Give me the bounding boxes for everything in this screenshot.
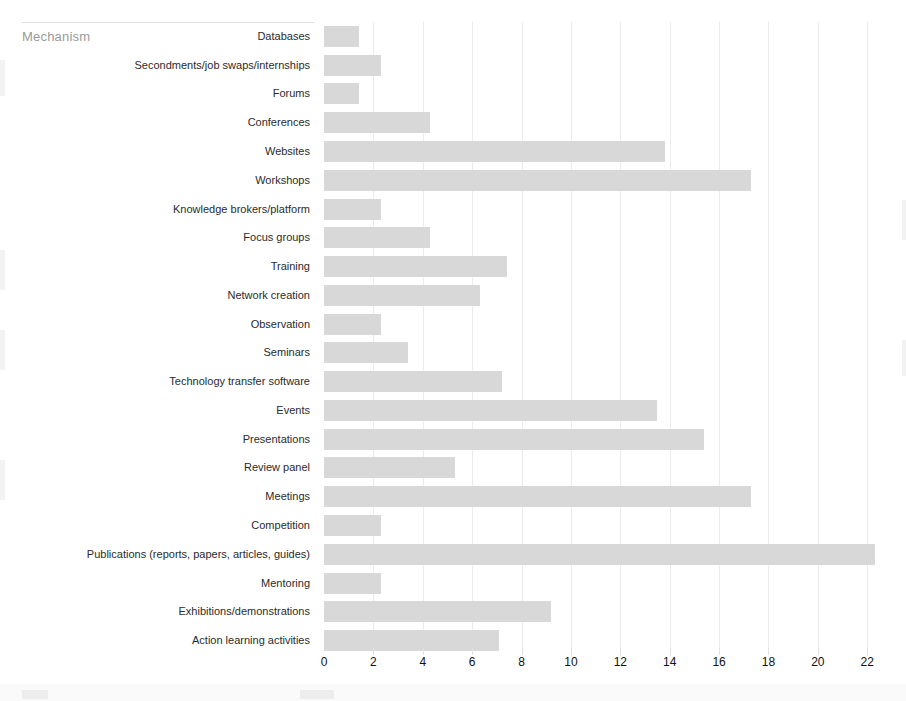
bar[interactable] <box>324 314 381 335</box>
bar-row[interactable] <box>324 457 887 478</box>
bar[interactable] <box>324 515 381 536</box>
bar[interactable] <box>324 170 751 191</box>
page-edge-artifact <box>902 340 906 376</box>
category-label: Review panel <box>244 457 310 478</box>
bar-row[interactable] <box>324 285 887 306</box>
bar[interactable] <box>324 112 430 133</box>
bar[interactable] <box>324 83 359 104</box>
bar-row[interactable] <box>324 342 887 363</box>
category-label: Websites <box>265 141 310 162</box>
bar[interactable] <box>324 429 704 450</box>
page-edge-artifact <box>902 200 906 240</box>
x-tick-label: 12 <box>614 655 627 669</box>
category-label-column: DatabasesSecondments/job swaps/internshi… <box>0 22 324 655</box>
bar-row[interactable] <box>324 55 887 76</box>
bar-row[interactable] <box>324 515 887 536</box>
bar[interactable] <box>324 141 665 162</box>
x-tick-mark <box>620 648 621 655</box>
x-tick-mark <box>719 648 720 655</box>
category-label: Publications (reports, papers, articles,… <box>87 544 310 565</box>
page-footer-artifact <box>0 684 906 701</box>
category-label: Seminars <box>264 342 310 363</box>
category-label: Network creation <box>227 285 310 306</box>
category-label: Secondments/job swaps/internships <box>135 55 310 76</box>
bar-row[interactable] <box>324 544 887 565</box>
x-tick-mark <box>867 648 868 655</box>
x-tick-label: 6 <box>469 655 476 669</box>
x-tick-label: 18 <box>762 655 775 669</box>
bar-row[interactable] <box>324 486 887 507</box>
plot-area <box>324 22 887 655</box>
category-label: Knowledge brokers/platform <box>173 199 310 220</box>
category-label: Events <box>276 400 310 421</box>
bar-row[interactable] <box>324 141 887 162</box>
bar-row[interactable] <box>324 83 887 104</box>
chart-page: Mechanism DatabasesSecondments/job swaps… <box>0 0 906 701</box>
bar-row[interactable] <box>324 26 887 47</box>
x-tick-mark <box>768 648 769 655</box>
category-label: Mentoring <box>261 573 310 594</box>
category-label: Workshops <box>255 170 310 191</box>
category-label: Focus groups <box>243 227 310 248</box>
bar-row[interactable] <box>324 429 887 450</box>
bar-row[interactable] <box>324 601 887 622</box>
bar-row[interactable] <box>324 227 887 248</box>
category-label: Training <box>271 256 310 277</box>
category-label: Forums <box>273 83 310 104</box>
x-tick-mark <box>373 648 374 655</box>
footer-mark <box>300 690 334 699</box>
bar[interactable] <box>324 457 455 478</box>
x-tick-label: 0 <box>321 655 328 669</box>
category-label: Presentations <box>243 429 310 450</box>
bar-row[interactable] <box>324 314 887 335</box>
bar-row[interactable] <box>324 256 887 277</box>
x-axis: 0246810121416182022 <box>324 655 887 677</box>
category-label: Technology transfer software <box>169 371 310 392</box>
bar[interactable] <box>324 285 480 306</box>
category-label: Exhibitions/demonstrations <box>179 601 310 622</box>
category-label: Databases <box>257 26 310 47</box>
x-tick-label: 2 <box>370 655 377 669</box>
bar-row[interactable] <box>324 630 887 651</box>
bar-row[interactable] <box>324 170 887 191</box>
footer-mark <box>22 690 48 699</box>
x-tick-mark <box>472 648 473 655</box>
x-tick-label: 22 <box>861 655 874 669</box>
category-label: Conferences <box>248 112 310 133</box>
bar[interactable] <box>324 486 751 507</box>
x-tick-label: 14 <box>663 655 676 669</box>
category-label: Action learning activities <box>192 630 310 651</box>
x-tick-mark <box>571 648 572 655</box>
x-tick-mark <box>522 648 523 655</box>
bar-row[interactable] <box>324 112 887 133</box>
bar[interactable] <box>324 227 430 248</box>
x-tick-mark <box>818 648 819 655</box>
x-tick-label: 4 <box>419 655 426 669</box>
bar[interactable] <box>324 26 359 47</box>
bar-row[interactable] <box>324 573 887 594</box>
category-label: Meetings <box>265 486 310 507</box>
category-label: Observation <box>251 314 310 335</box>
x-tick-label: 10 <box>564 655 577 669</box>
category-label: Competition <box>251 515 310 536</box>
bar[interactable] <box>324 371 502 392</box>
bar[interactable] <box>324 55 381 76</box>
x-tick-mark <box>423 648 424 655</box>
x-tick-label: 8 <box>518 655 525 669</box>
x-tick-mark <box>670 648 671 655</box>
bar[interactable] <box>324 342 408 363</box>
bar-row[interactable] <box>324 199 887 220</box>
bar-row[interactable] <box>324 400 887 421</box>
bar[interactable] <box>324 400 657 421</box>
bar[interactable] <box>324 601 551 622</box>
bar[interactable] <box>324 573 381 594</box>
x-tick-label: 16 <box>712 655 725 669</box>
bar-row[interactable] <box>324 371 887 392</box>
bar[interactable] <box>324 544 875 565</box>
bar[interactable] <box>324 199 381 220</box>
bar[interactable] <box>324 256 507 277</box>
x-tick-label: 20 <box>811 655 824 669</box>
